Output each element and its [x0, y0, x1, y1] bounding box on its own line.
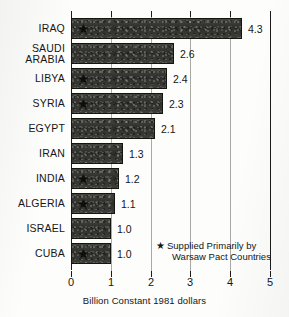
legend: ★ Supplied Primarily by Warsaw Pact Coun…: [156, 240, 280, 262]
warsaw-pact-star-icon: ★: [78, 23, 89, 35]
bar-row: ★2.3: [71, 93, 270, 114]
bar-row: ★1.1: [71, 193, 270, 214]
bar-value-label: 1.0: [117, 248, 132, 260]
bar-row: 1.3: [71, 143, 270, 164]
category-label: ISRAEL: [0, 223, 65, 234]
category-label: IRAN: [0, 148, 65, 159]
x-tick-label-3: 3: [180, 276, 200, 288]
bar-value-label: 1.2: [125, 173, 140, 185]
x-tick-label-2: 2: [141, 276, 161, 288]
bar-cuba[interactable]: ★: [71, 243, 111, 264]
category-label: EGYPT: [0, 123, 65, 134]
bar-row: 2.1: [71, 118, 270, 139]
bar-row: ★2.4: [71, 68, 270, 89]
bar-row: 2.6: [71, 43, 270, 64]
legend-line-1: Supplied Primarily by: [167, 240, 280, 251]
bar-algeria[interactable]: ★: [71, 193, 115, 214]
x-tick-top-3: [190, 11, 191, 17]
x-tick-label-1: 1: [101, 276, 121, 288]
bar-syria[interactable]: ★: [71, 93, 163, 114]
bar-value-label: 1.0: [117, 223, 132, 235]
x-tick-top-2: [151, 11, 152, 17]
category-label: CUBA: [0, 248, 65, 259]
bar-value-label: 2.3: [169, 98, 184, 110]
x-tick-label-0: 0: [61, 276, 81, 288]
warsaw-pact-star-icon: ★: [78, 248, 89, 260]
bar-value-label: 2.6: [180, 48, 195, 60]
bar-row: 1.0: [71, 218, 270, 239]
category-label: SAUDIARABIA: [0, 43, 65, 65]
legend-line-2: Warsaw Pact Countries: [172, 251, 280, 262]
bar-india[interactable]: ★: [71, 168, 119, 189]
category-label: INDIA: [0, 173, 65, 184]
warsaw-pact-star-icon: ★: [78, 198, 89, 210]
chart-page: ★4.32.6★2.4★2.32.11.3★1.2★1.11.0★1.0 012…: [0, 0, 289, 317]
x-tick-label-5: 5: [260, 276, 280, 288]
bar-egypt[interactable]: [71, 118, 155, 139]
x-tick-top-4: [230, 11, 231, 17]
bar-row: ★4.3: [71, 18, 270, 39]
bar-row: ★1.2: [71, 168, 270, 189]
category-label: LIBYA: [0, 73, 65, 84]
bar-saudi-arabia[interactable]: [71, 43, 174, 64]
x-tick-label-4: 4: [220, 276, 240, 288]
x-axis-title: Billion Constant 1981 dollars: [0, 295, 289, 306]
warsaw-pact-star-icon: ★: [78, 98, 89, 110]
bar-libya[interactable]: ★: [71, 68, 167, 89]
category-label: ALGERIA: [0, 198, 65, 209]
axis-line-5: [270, 17, 271, 270]
bar-value-label: 2.4: [173, 73, 188, 85]
bar-iraq[interactable]: ★: [71, 18, 242, 39]
category-label: IRAQ: [0, 23, 65, 34]
category-label-line-2: ARABIA: [0, 54, 65, 65]
legend-star-icon: ★: [156, 240, 165, 251]
bar-israel[interactable]: [71, 218, 111, 239]
warsaw-pact-star-icon: ★: [78, 73, 89, 85]
bar-chart: ★4.32.6★2.4★2.32.11.3★1.2★1.11.0★1.0 012…: [0, 0, 289, 317]
bar-iran[interactable]: [71, 143, 123, 164]
category-label: SYRIA: [0, 98, 65, 109]
x-tick-top-1: [111, 11, 112, 17]
bar-value-label: 1.1: [121, 198, 136, 210]
warsaw-pact-star-icon: ★: [78, 173, 89, 185]
bar-value-label: 4.3: [248, 23, 263, 35]
bar-value-label: 1.3: [129, 148, 144, 160]
bar-value-label: 2.1: [161, 123, 176, 135]
